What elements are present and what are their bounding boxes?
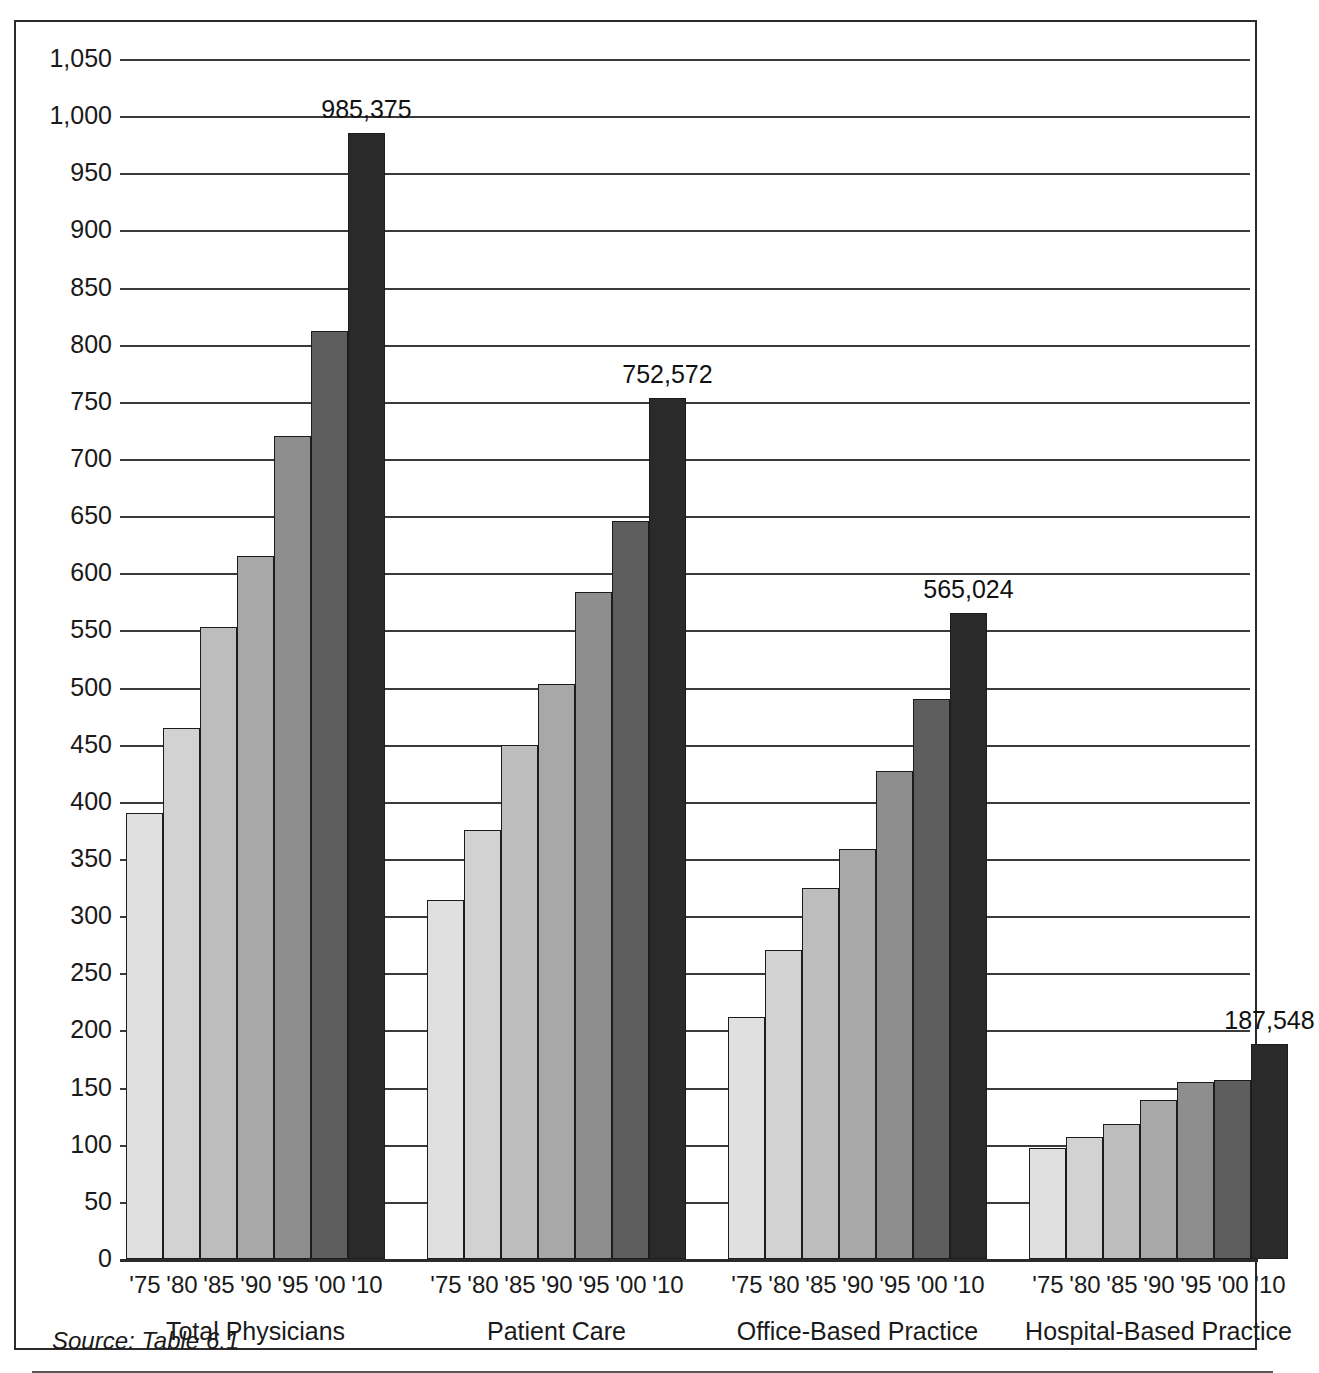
y-axis-tick-label: 600 — [22, 560, 112, 585]
bar-group — [126, 59, 385, 1259]
group-label: Patient Care — [397, 1317, 716, 1346]
bar[interactable] — [649, 398, 686, 1259]
x-axis-tick-label: '80 — [463, 1271, 503, 1299]
x-axis-tick-label: '90 — [838, 1271, 878, 1299]
y-axis-tick-label: 900 — [22, 217, 112, 242]
bar[interactable] — [311, 331, 348, 1259]
y-axis-tick-label: 1,000 — [22, 103, 112, 128]
bar-value-label: 752,572 — [598, 362, 738, 387]
bar[interactable] — [163, 728, 200, 1259]
x-axis-tick-label: '95 — [273, 1271, 313, 1299]
bar-group — [728, 59, 987, 1259]
x-axis-tick-label: '85 — [199, 1271, 239, 1299]
chart-frame: 0501001502002503003504004505005506006507… — [14, 20, 1257, 1350]
bar[interactable] — [950, 613, 987, 1259]
x-axis-tick-label: '90 — [1139, 1271, 1179, 1299]
y-axis-tick-label: 150 — [22, 1075, 112, 1100]
x-axis-line — [120, 1259, 1258, 1262]
bar[interactable] — [765, 950, 802, 1259]
plot-area: 0501001502002503003504004505005506006507… — [120, 59, 1250, 1259]
bar[interactable] — [1066, 1137, 1103, 1259]
bar[interactable] — [1214, 1080, 1251, 1259]
y-axis-tick-label: 500 — [22, 675, 112, 700]
bar[interactable] — [1029, 1148, 1066, 1259]
y-axis-tick-label: 800 — [22, 332, 112, 357]
y-axis-tick-label: 50 — [22, 1189, 112, 1214]
x-axis-tick-label: '90 — [236, 1271, 276, 1299]
x-axis-tick-label: '75 — [727, 1271, 767, 1299]
group-label: Hospital-Based Practice — [999, 1317, 1318, 1346]
bar[interactable] — [876, 771, 913, 1259]
bar[interactable] — [802, 888, 839, 1259]
bar[interactable] — [501, 745, 538, 1259]
bar[interactable] — [274, 436, 311, 1259]
x-axis-tick-label: '75 — [1028, 1271, 1068, 1299]
bar[interactable] — [348, 133, 385, 1259]
x-axis-tick-label: '95 — [875, 1271, 915, 1299]
bar-group — [1029, 59, 1288, 1259]
y-axis-tick-label: 700 — [22, 446, 112, 471]
bar[interactable] — [913, 699, 950, 1259]
y-axis-tick-label: 350 — [22, 846, 112, 871]
bar[interactable] — [575, 592, 612, 1259]
x-axis-tick-label: '95 — [1176, 1271, 1216, 1299]
x-axis-tick-label: '10 — [1250, 1271, 1290, 1299]
y-axis-tick-label: 400 — [22, 789, 112, 814]
x-axis-tick-label: '85 — [1102, 1271, 1142, 1299]
bar[interactable] — [200, 627, 237, 1259]
y-axis-tick-label: 1,050 — [22, 46, 112, 71]
x-axis-tick-label: '00 — [310, 1271, 350, 1299]
x-axis-tick-label: '75 — [426, 1271, 466, 1299]
bar[interactable] — [427, 900, 464, 1259]
x-axis-tick-label: '80 — [1065, 1271, 1105, 1299]
y-axis-tick-label: 0 — [22, 1246, 112, 1271]
x-axis-tick-label: '00 — [611, 1271, 651, 1299]
x-axis-tick-label: '75 — [125, 1271, 165, 1299]
x-axis-tick-label: '95 — [574, 1271, 614, 1299]
bar[interactable] — [1140, 1100, 1177, 1259]
bar[interactable] — [1177, 1082, 1214, 1259]
bar[interactable] — [839, 849, 876, 1259]
y-axis-tick-label: 750 — [22, 389, 112, 414]
group-label: Office-Based Practice — [698, 1317, 1017, 1346]
y-axis-tick-label: 650 — [22, 503, 112, 528]
bar-value-label: 985,375 — [297, 97, 437, 122]
y-axis-tick-label: 950 — [22, 160, 112, 185]
y-axis-tick-label: 250 — [22, 960, 112, 985]
x-axis-tick-label: '80 — [764, 1271, 804, 1299]
y-axis-tick-label: 550 — [22, 617, 112, 642]
source-note: Source: Table 6.1 — [52, 1327, 239, 1355]
x-axis-tick-label: '85 — [500, 1271, 540, 1299]
bar[interactable] — [464, 830, 501, 1259]
x-axis-tick-label: '10 — [949, 1271, 989, 1299]
x-axis-tick-label: '80 — [162, 1271, 202, 1299]
y-axis-tick-label: 300 — [22, 903, 112, 928]
bar[interactable] — [1251, 1044, 1288, 1259]
bar[interactable] — [1103, 1124, 1140, 1259]
y-axis-tick-label: 100 — [22, 1132, 112, 1157]
bar[interactable] — [126, 813, 163, 1259]
bar[interactable] — [237, 556, 274, 1259]
x-axis-tick-label: '90 — [537, 1271, 577, 1299]
y-axis-tick-label: 200 — [22, 1017, 112, 1042]
bar[interactable] — [538, 684, 575, 1259]
x-axis-tick-label: '00 — [1213, 1271, 1253, 1299]
x-axis-tick-label: '85 — [801, 1271, 841, 1299]
bar-group — [427, 59, 686, 1259]
x-axis-tick-label: '10 — [347, 1271, 387, 1299]
bar-value-label: 187,548 — [1200, 1008, 1319, 1033]
y-axis-tick-label: 450 — [22, 732, 112, 757]
x-axis-tick-label: '10 — [648, 1271, 688, 1299]
bar[interactable] — [728, 1017, 765, 1259]
x-axis-tick-label: '00 — [912, 1271, 952, 1299]
y-axis-tick-label: 850 — [22, 275, 112, 300]
bar[interactable] — [612, 521, 649, 1259]
bar-value-label: 565,024 — [899, 577, 1039, 602]
